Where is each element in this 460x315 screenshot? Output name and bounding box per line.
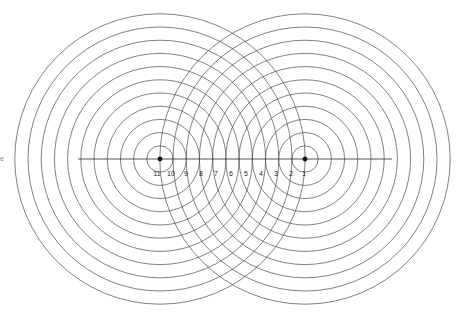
tick-label: 2 xyxy=(289,170,293,177)
tick-label: 3 xyxy=(274,170,278,177)
tick-label: 11 xyxy=(153,170,160,177)
tick-label: 10 xyxy=(167,170,175,177)
tick-label: 4 xyxy=(259,170,263,177)
left-source-dot xyxy=(158,157,162,161)
wavefront-diagram: 1110987654321 e xyxy=(0,0,460,315)
diagram-canvas: 1110987654321 e xyxy=(0,0,460,315)
tick-label: 1 xyxy=(302,170,306,177)
tick-label: 9 xyxy=(184,170,188,177)
edge-mark-group: e xyxy=(0,155,4,162)
tick-label: 7 xyxy=(214,170,218,177)
tick-label: 5 xyxy=(244,170,248,177)
left-edge-fragment: e xyxy=(0,155,4,162)
right-source-dot xyxy=(303,157,307,161)
tick-label: 8 xyxy=(199,170,203,177)
tick-label: 6 xyxy=(229,170,233,177)
